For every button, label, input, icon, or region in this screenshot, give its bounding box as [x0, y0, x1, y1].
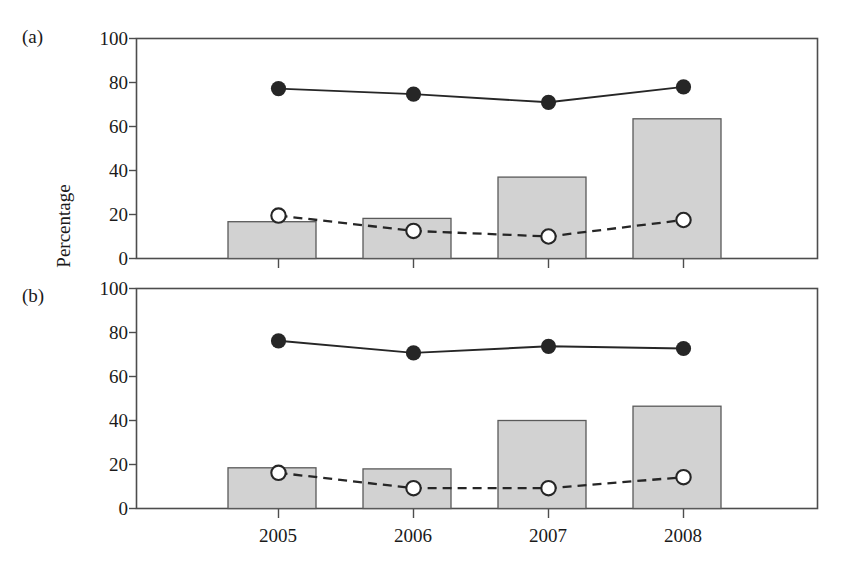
panel-b [129, 289, 818, 519]
panel-a-bars [228, 119, 721, 259]
panel-a [129, 39, 818, 269]
bar-b-2007 [498, 421, 586, 509]
panel-b-bars [228, 406, 721, 508]
bar-a-2005 [228, 222, 316, 259]
panel-a-x-ticks [279, 259, 684, 269]
panel-b-open-circle-line [279, 473, 684, 488]
panel-a-filled-circle-line [279, 87, 684, 102]
panel-b-open-circle-markers [271, 466, 690, 496]
bar-a-2007 [498, 177, 586, 258]
bar-b-2008 [633, 406, 721, 508]
plot-canvas [0, 0, 855, 566]
bar-a-2008 [633, 119, 721, 259]
panel-a-open-circle-line [279, 216, 684, 237]
panel-a-filled-circle-markers [271, 79, 691, 110]
panel-b-y-ticks [129, 289, 136, 509]
panel-b-x-ticks [279, 509, 684, 519]
figure-root: (a) (b) Percentage 100 80 60 40 20 0 100… [0, 0, 855, 566]
panel-b-filled-circle-line [279, 341, 684, 353]
panel-a-y-ticks [129, 39, 136, 259]
bar-a-2006 [363, 218, 451, 258]
